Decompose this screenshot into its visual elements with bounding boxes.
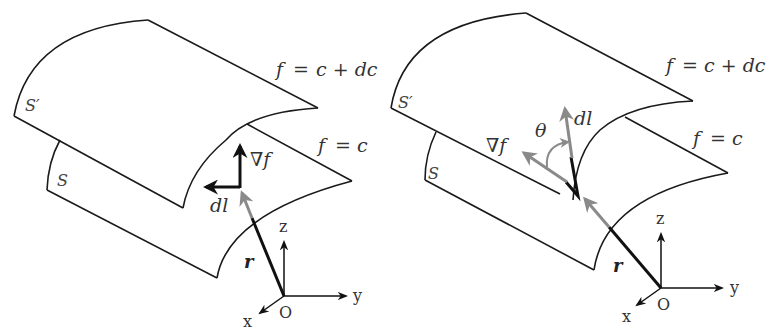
label-s: S <box>57 171 68 190</box>
axes-left <box>260 242 346 313</box>
svg-text:c: c <box>357 134 368 156</box>
label-axis-y: y <box>352 286 362 305</box>
label-axis-x: x <box>243 312 252 331</box>
svg-text:=: = <box>335 134 351 156</box>
svg-text:f: f <box>274 58 286 80</box>
label-gradient: ∇f <box>250 148 273 170</box>
svg-text:f: f <box>664 54 676 76</box>
label-s-prime: S′ <box>398 93 413 112</box>
svg-text:c + dc: c + dc <box>316 58 378 80</box>
angle-arc <box>547 142 568 167</box>
gradient-vector <box>524 153 567 182</box>
svg-text:f: f <box>691 127 703 149</box>
axes-right <box>637 234 722 305</box>
label-dl: dl <box>574 107 592 129</box>
svg-text:c: c <box>732 127 743 149</box>
r-vector-tip <box>585 199 609 227</box>
label-axis-x: x <box>622 307 631 326</box>
r-vector-tip <box>242 193 252 218</box>
label-s: S <box>428 164 439 183</box>
svg-text:=: = <box>682 54 698 76</box>
figure-canvas: S′ S f = c + dc f = c ∇f dl r z y x O <box>0 0 774 334</box>
label-r: r <box>613 255 624 276</box>
surface-lower-s <box>47 124 352 278</box>
label-theta: θ <box>535 119 547 141</box>
svg-text:f: f <box>316 134 328 156</box>
right-panel: S′ S f = c + dc f = c ∇f dl θ r z y x O <box>391 13 766 326</box>
equation-upper-right: f = c + dc <box>664 54 766 76</box>
equation-lower-left: f = c <box>316 134 368 156</box>
left-panel: S′ S f = c + dc f = c ∇f dl r z y x O <box>14 20 378 331</box>
label-r: r <box>244 251 255 272</box>
svg-text:=: = <box>293 58 309 80</box>
svg-text:c + dc: c + dc <box>704 54 766 76</box>
label-axis-y: y <box>729 278 739 297</box>
dl-vector <box>565 109 572 158</box>
label-axis-z: z <box>279 217 287 236</box>
label-origin: O <box>279 303 292 322</box>
label-gradient: ∇f <box>486 134 509 156</box>
equation-lower-right: f = c <box>691 127 743 149</box>
label-s-prime: S′ <box>25 96 40 115</box>
svg-text:=: = <box>710 127 726 149</box>
equation-upper-left: f = c + dc <box>274 58 378 80</box>
label-origin: O <box>657 295 670 314</box>
label-dl: dl <box>210 194 228 216</box>
label-axis-z: z <box>656 209 664 228</box>
